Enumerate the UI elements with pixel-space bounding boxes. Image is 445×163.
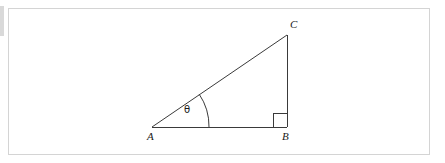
vertex-label-c: C: [290, 19, 297, 30]
diagram-canvas: A B C θ: [0, 0, 445, 163]
right-angle-square-icon: [273, 113, 287, 127]
vertex-label-b: B: [282, 131, 289, 142]
triangle-side-hypotenuse-ac: [152, 35, 287, 127]
triangle-diagram: [0, 0, 445, 163]
angle-arc-theta-icon: [199, 94, 209, 127]
angle-label-theta: θ: [184, 105, 190, 115]
vertex-label-a: A: [147, 131, 154, 142]
